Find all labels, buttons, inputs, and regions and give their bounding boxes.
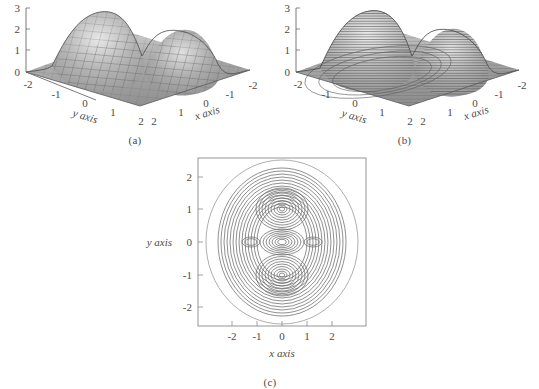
panel-c-x-tick-2: 0 [279, 330, 285, 342]
panel-b-z-tick-1: 1 [285, 44, 291, 56]
panel-a-caption: (a) [0, 134, 270, 146]
panel-a-y-tick-1: -1 [51, 88, 60, 100]
panel-b-x-tick-3: -1 [494, 88, 503, 100]
panel-c-y-axis-title: y axis [146, 236, 172, 248]
panel-b-z-ticks: 3 2 1 0 [285, 2, 291, 78]
panel-b-y-axis-title: y axis [339, 106, 368, 125]
panel-b-y-tick-4: 2 [407, 115, 413, 127]
panel-c-y-tick-4: 2 [187, 171, 193, 183]
panel-a-y-axis-title: y axis [70, 106, 99, 125]
panel-a-z-ticks: 3 2 1 0 [15, 2, 21, 78]
panel-b-axes [296, 8, 300, 72]
panel-b-z-tick-0: 0 [285, 66, 291, 78]
panel-c-x-tick-1: -1 [252, 330, 261, 342]
panel-c-plot: 2 1 0 -1 -2 -2 -1 0 1 2 y axis x axis [120, 146, 420, 389]
panel-a-x-axis-title: x axis [192, 103, 221, 122]
panel-c-y-ticks: 2 1 0 -1 -2 [183, 171, 193, 313]
panel-c-y-tick-3: 1 [187, 203, 193, 215]
panel-c-contour: 2 1 0 -1 -2 -2 -1 0 1 2 y axis x axis [120, 146, 420, 389]
panel-a-z-tick-1: 1 [15, 44, 21, 56]
panel-b-y-tick-0: -2 [293, 78, 302, 90]
panel-b-x-axis-title: x axis [461, 103, 490, 122]
panel-a-x-tick-4: -2 [248, 79, 257, 91]
panel-c-caption: (c) [120, 376, 420, 388]
panel-b-x-tick-1: 1 [447, 106, 453, 118]
panel-a-z-tick-2: 2 [15, 23, 21, 35]
panel-a-surface-mesh: 3 2 1 0 -2 -1 0 1 2 2 1 0 -1 -2 [0, 0, 270, 148]
figure-container: 3 2 1 0 -2 -1 0 1 2 2 1 0 -1 -2 [0, 0, 539, 389]
panel-b-z-tick-3: 3 [285, 2, 291, 14]
panel-b-surface-contour: 3 2 1 0 -2 -1 0 1 2 2 1 0 -1 -2 [270, 0, 539, 148]
panel-c-x-tick-3: 1 [304, 330, 310, 342]
panel-a-z-tick-3: 3 [15, 2, 21, 14]
panel-b-x-tick-0: 2 [420, 115, 426, 127]
panel-a-x-tick-3: -1 [225, 88, 234, 100]
panel-b-x-tick-4: -2 [517, 79, 526, 91]
panel-a-z-tick-0: 0 [15, 66, 21, 78]
panel-a-y-tick-2: 0 [82, 97, 88, 109]
panel-a-y-tick-4: 2 [138, 115, 144, 127]
panel-b-z-tick-2: 2 [285, 23, 291, 35]
panel-a-x-tick-1: 1 [178, 106, 184, 118]
panel-c-y-tick-1: -1 [183, 269, 192, 281]
panel-a-y-tick-3: 1 [110, 106, 116, 118]
panel-c-x-ticks: -2 -1 0 1 2 [227, 330, 334, 342]
panel-c-x-tick-0: -2 [227, 330, 236, 342]
panel-a-plot: 3 2 1 0 -2 -1 0 1 2 2 1 0 -1 -2 [0, 0, 270, 148]
panel-b-y-tick-1: -1 [321, 88, 330, 100]
panel-c-x-tick-4: 2 [329, 330, 335, 342]
panel-b-caption: (b) [270, 134, 539, 146]
panel-b-y-tick-3: 1 [379, 106, 385, 118]
panel-a-y-tick-0: -2 [23, 78, 32, 90]
panel-b-y-tick-2: 0 [352, 97, 358, 109]
panel-b-plot: 3 2 1 0 -2 -1 0 1 2 2 1 0 -1 -2 [270, 0, 539, 148]
panel-c-y-tick-2: 0 [187, 236, 193, 248]
panel-c-x-axis-title: x axis [268, 347, 294, 359]
panel-c-y-tick-0: -2 [183, 301, 192, 313]
panel-a-x-tick-0: 2 [151, 115, 157, 127]
